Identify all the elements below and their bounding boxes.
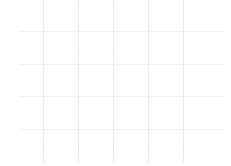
horizontal-gridline-1: [20, 31, 224, 32]
vertical-gridline-dots-1: [43, 132, 44, 164]
vertical-gridline-dots-3: [113, 132, 114, 164]
chart-figure: [0, 0, 231, 166]
vertical-gridline-dots-5: [183, 132, 184, 164]
vertical-gridline-dots-4: [148, 132, 149, 164]
horizontal-gridline-4: [20, 129, 224, 130]
horizontal-gridline-2: [20, 64, 224, 65]
horizontal-gridline-3: [20, 96, 224, 97]
vertical-gridline-dots-2: [78, 132, 79, 164]
plot-area: [0, 0, 231, 166]
